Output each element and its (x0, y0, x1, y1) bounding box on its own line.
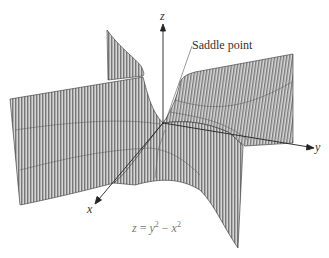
y-axis-arrowhead (307, 145, 315, 151)
x-axis-label: x (87, 202, 92, 217)
equation-label: z = y2 − x2 (132, 220, 181, 236)
equation-minus: − (159, 221, 172, 235)
saddle-point-label: Saddle point (192, 38, 252, 53)
surface-back-left-fin (107, 30, 144, 80)
z-axis-label: z (160, 9, 165, 24)
surface-left-wing (10, 77, 163, 205)
z-axis-arrowhead (161, 24, 166, 31)
y-axis-label: y (315, 140, 320, 155)
equation-equals: = (137, 221, 150, 235)
equation-term2-exp: 2 (177, 220, 181, 229)
